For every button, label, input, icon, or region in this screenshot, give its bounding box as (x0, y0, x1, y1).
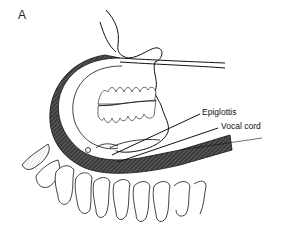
panel-letter: A (18, 8, 26, 22)
anatomy-diagram: A Epiglottis Vocal cord (0, 0, 288, 242)
teeth (98, 87, 156, 122)
epiglottis-label: Epiglottis (202, 107, 237, 117)
face-profile (100, 10, 168, 152)
vocal-cord-label: Vocal cord (221, 121, 261, 131)
laryngoscope-blade (120, 58, 225, 68)
